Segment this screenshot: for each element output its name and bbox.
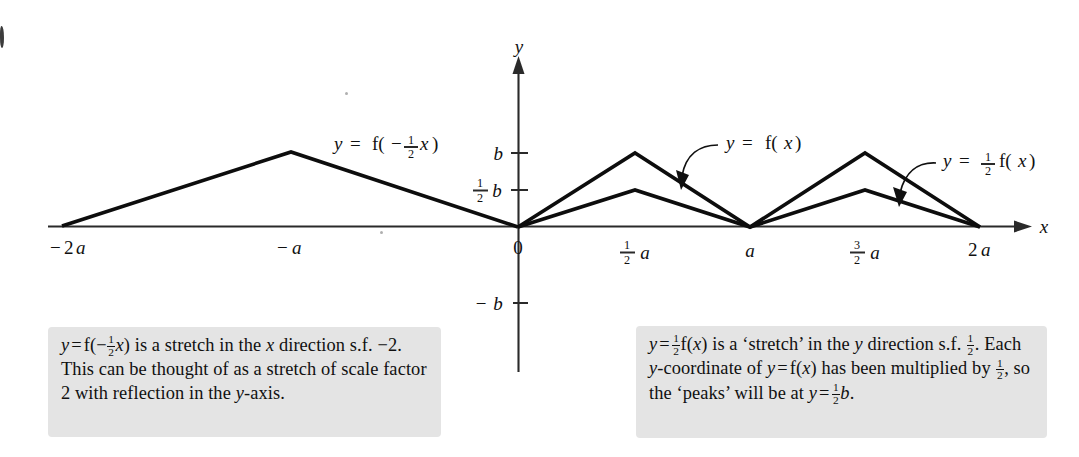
svg-text:b: b: [492, 180, 502, 201]
svg-text:2: 2: [477, 191, 483, 205]
svg-text:=: =: [350, 133, 361, 154]
svg-text:=: =: [742, 132, 753, 153]
x-axis-arrowhead: [1014, 221, 1032, 233]
y-axis-label: y: [513, 36, 524, 57]
svg-text:=: =: [959, 150, 970, 171]
svg-text:2: 2: [624, 253, 630, 267]
caption-left-sf: s.f.: [350, 335, 373, 355]
caption-left-phrase-6: -axis.: [244, 383, 285, 403]
caption-left-phrase-3: This can be thought of as a: [61, 359, 262, 379]
svg-text:a: a: [76, 237, 86, 258]
caption-left-phrase-5: the: [208, 383, 231, 403]
svg-text:y: y: [332, 133, 343, 154]
svg-text:b: b: [493, 293, 503, 314]
svg-text:f(: f(: [765, 132, 778, 154]
annotation-f-x: y = f( x ): [676, 132, 801, 190]
caption-right-text: y=12f(x) is a ‘stretch’ in the y directi…: [649, 334, 1030, 403]
svg-text:f(: f(: [999, 150, 1012, 172]
svg-text:2: 2: [968, 239, 978, 260]
svg-text:x: x: [419, 133, 429, 154]
svg-text:−: −: [391, 133, 402, 154]
svg-text:x: x: [1017, 150, 1027, 171]
x-tick-label-minus-2a: − 2 a: [50, 237, 86, 258]
x-tick-label-minus-a: − a: [277, 237, 302, 258]
svg-text:1: 1: [985, 150, 991, 164]
svg-text:2: 2: [985, 164, 991, 178]
svg-text:1: 1: [624, 238, 630, 252]
annotation-half-f-x: y = 1 2 f( x ): [893, 150, 1035, 207]
svg-text:2: 2: [408, 147, 414, 161]
svg-text:−: −: [476, 293, 487, 314]
svg-text:y: y: [724, 132, 735, 153]
caption-right-phrase-3: Each: [984, 334, 1021, 354]
x-tick-label-2a: 2 a: [968, 239, 991, 260]
x-tick-label-half-a: 1 2 a: [620, 238, 650, 267]
svg-text:1: 1: [477, 176, 483, 190]
curve-f-minus-half-x: [62, 152, 518, 227]
svg-text:−: −: [277, 237, 288, 258]
caption-left-phrase-2: direction: [279, 335, 345, 355]
caption-left-phrase-1: is a stretch in the: [135, 335, 262, 355]
svg-text:3: 3: [854, 238, 860, 252]
svg-text:y: y: [941, 150, 952, 171]
y-tick-label-half-b: 1 2 b: [473, 176, 502, 205]
x-tick-label-three-halves-a: 3 2 a: [850, 238, 880, 267]
origin-label: 0: [513, 237, 523, 258]
svg-text:): ): [795, 132, 801, 154]
svg-text:1: 1: [408, 133, 414, 147]
svg-text:a: a: [640, 242, 650, 263]
svg-text:a: a: [981, 239, 991, 260]
svg-text:x: x: [783, 132, 793, 153]
svg-text:): ): [1029, 150, 1035, 172]
svg-text:a: a: [870, 242, 880, 263]
svg-text:2: 2: [854, 253, 860, 267]
y-tick-label-minus-b: − b: [476, 293, 503, 314]
caption-left-text: y=f(−12x) is a stretch in the x directio…: [61, 335, 427, 403]
caption-right-phrase-5: has: [821, 358, 846, 378]
caption-right-phrase-6: been multiplied by: [851, 358, 991, 378]
curve-half-f-x: [518, 190, 980, 227]
caption-right-phrase-1: is a ‘stretch’ in the: [712, 334, 850, 354]
annotation-f-minus-half-x: y = f( − 1 2 x ): [332, 133, 438, 161]
caption-box-left: y=f(−12x) is a stretch in the x directio…: [48, 327, 441, 437]
svg-text:): ): [432, 133, 438, 155]
curve-f-x: [518, 153, 980, 227]
y-tick-label-b: b: [494, 143, 504, 164]
caption-right-sf: s.f.: [938, 334, 961, 354]
figure-canvas: x y b 1 2 b − b − 2 a − a 0: [0, 0, 1079, 457]
x-axis-label: x: [1039, 216, 1049, 237]
caption-right-phrase-8: be at: [768, 383, 804, 403]
caption-right-phrase-2: direction: [867, 334, 933, 354]
x-tick-label-a: a: [745, 240, 755, 261]
caption-left-value: −2.: [377, 335, 401, 355]
svg-text:f(: f(: [372, 133, 385, 155]
annotation-f-x-leader: [682, 145, 718, 176]
caption-right-phrase-4: -coordinate of: [657, 358, 762, 378]
svg-text:2: 2: [64, 237, 74, 258]
caption-box-right: y=12f(x) is a ‘stretch’ in the y directi…: [636, 326, 1047, 438]
y-axis-arrowhead: [513, 56, 525, 74]
svg-text:−: −: [50, 237, 61, 258]
svg-text:a: a: [292, 237, 302, 258]
